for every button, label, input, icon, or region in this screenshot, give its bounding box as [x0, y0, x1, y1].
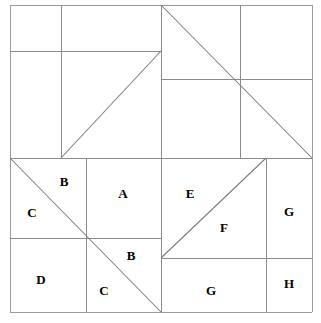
diagonal-top-left-piece — [61, 51, 161, 158]
label-d: D — [36, 273, 45, 286]
label-a: A — [118, 187, 127, 200]
geometric-figure-canvas: BCAEGFBDCGH — [0, 0, 321, 323]
label-f: F — [220, 221, 228, 234]
label-g-right-upper: G — [284, 205, 294, 218]
label-c-left: C — [27, 206, 36, 219]
label-g-bottom: G — [206, 284, 216, 297]
diagonal-top-right-large — [161, 5, 312, 158]
label-b-upper-left: B — [60, 175, 69, 188]
figure-linework — [0, 0, 321, 323]
label-h: H — [284, 277, 294, 290]
label-b-lower: B — [127, 249, 136, 262]
label-c-lower: C — [99, 284, 108, 297]
label-e: E — [186, 187, 195, 200]
diagonal-bottom-right — [161, 158, 266, 258]
